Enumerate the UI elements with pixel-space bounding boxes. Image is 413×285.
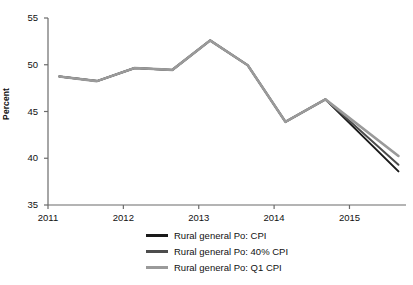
series-line xyxy=(59,40,398,155)
legend-item[interactable]: Rural general Po: Q1 CPI xyxy=(146,262,288,273)
y-tick-label: 45 xyxy=(16,107,38,117)
x-tick-label: 2013 xyxy=(179,213,219,223)
legend-item[interactable]: Rural general Po: CPI xyxy=(146,230,288,241)
legend-label: Rural general Po: 40% CPI xyxy=(174,247,288,257)
line-chart: Percent 3540455055 20112012201320142015 … xyxy=(0,0,413,285)
legend-item[interactable]: Rural general Po: 40% CPI xyxy=(146,246,288,257)
y-tick-label: 55 xyxy=(16,13,38,23)
legend-line-icon xyxy=(146,250,168,253)
x-tick-label: 2012 xyxy=(103,213,143,223)
series-line xyxy=(59,40,398,164)
y-tick-label: 35 xyxy=(16,200,38,210)
y-tick-label: 40 xyxy=(16,153,38,163)
legend-label: Rural general Po: Q1 CPI xyxy=(174,263,282,273)
x-tick-label: 2014 xyxy=(254,213,294,223)
legend-label: Rural general Po: CPI xyxy=(174,231,266,241)
axis-lines xyxy=(48,18,406,205)
legend-line-icon xyxy=(146,266,168,269)
x-axis-ticks xyxy=(48,205,349,209)
data-series-group xyxy=(59,40,398,171)
legend-line-icon xyxy=(146,234,168,237)
series-line xyxy=(59,40,398,171)
x-tick-label: 2015 xyxy=(329,213,369,223)
x-tick-label: 2011 xyxy=(28,213,68,223)
y-tick-label: 50 xyxy=(16,60,38,70)
chart-legend: Rural general Po: CPIRural general Po: 4… xyxy=(146,230,288,273)
